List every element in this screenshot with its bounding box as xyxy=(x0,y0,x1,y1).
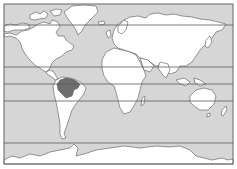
world-map-svg xyxy=(0,0,237,169)
tasmania xyxy=(207,113,210,117)
world-map xyxy=(0,0,237,169)
